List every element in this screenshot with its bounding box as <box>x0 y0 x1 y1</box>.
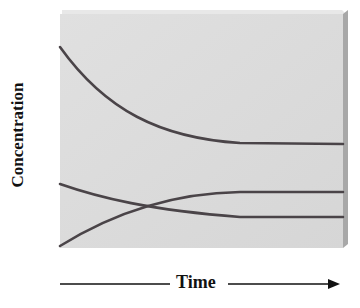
plot-top-edge <box>62 10 346 14</box>
y-axis-label-text: Concentration <box>8 83 28 188</box>
y-axis-label: Concentration <box>2 60 34 210</box>
x-axis-label: Time <box>176 272 216 293</box>
chart-svg <box>0 0 360 308</box>
plot-right-edge <box>343 10 348 248</box>
arrow-right-icon <box>328 279 340 289</box>
